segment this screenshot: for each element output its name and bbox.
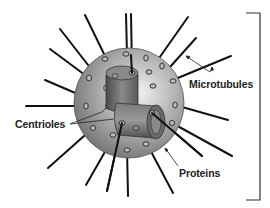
label-microtubules: Microtubules <box>189 78 253 90</box>
label-proteins: Proteins <box>179 167 220 179</box>
bracket <box>246 13 260 200</box>
centrosome-diagram <box>0 0 270 208</box>
centriole-front <box>114 103 165 139</box>
label-centrioles: Centrioles <box>15 118 65 130</box>
